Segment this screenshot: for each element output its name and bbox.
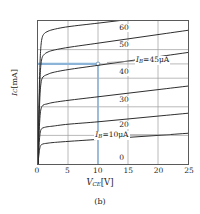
curve-label-40: 40: [118, 68, 130, 76]
gridlines: [38, 21, 188, 164]
x-axis-label-unit: [V]: [101, 177, 114, 187]
x-tick-25: 25: [180, 167, 198, 175]
operating-point-annotation: [38, 62, 100, 164]
curve-ib-50: [38, 30, 188, 164]
x-tick-10: 10: [89, 167, 107, 175]
y-axis-label-unit: [mA]: [10, 69, 19, 89]
annotation-ib-45ua: IB=45μA: [135, 56, 170, 65]
curve-label-60: 60: [118, 24, 130, 32]
ib45-value: =45μA: [143, 55, 169, 64]
y-axis-label-symbol: I: [10, 93, 19, 96]
curve-group: [38, 21, 188, 164]
x-tick-20: 20: [150, 167, 168, 175]
curve-label-0: 0: [118, 154, 125, 162]
ib10-value: =10μA: [102, 130, 128, 139]
annotation-leader-lines: [107, 61, 170, 135]
curve-label-30: 30: [118, 96, 130, 104]
x-tick-0: 0: [28, 167, 46, 175]
x-tick-15: 15: [119, 167, 137, 175]
curve-ib-40: [38, 52, 188, 164]
chart-svg: [38, 21, 188, 164]
figure-caption: (b): [0, 197, 200, 206]
curve-label-50: 50: [118, 41, 130, 49]
plot-area: 60 50 40 30 20 0 IB=45μA IB=10μA: [37, 20, 189, 165]
y-axis-label-subscript: C: [12, 89, 18, 93]
x-axis-label: VCE[V]: [0, 177, 200, 187]
x-tick-5: 5: [58, 167, 76, 175]
curve-ib-60: [38, 21, 188, 164]
x-axis-label-subscript: CE: [93, 181, 101, 187]
annotation-ib-10ua: IB=10μA: [94, 131, 129, 140]
curve-label-20: 20: [118, 121, 130, 129]
y-axis-label: IC[mA]: [10, 53, 19, 113]
figure-output-characteristics: 10 8 7 6 4 2 0 IC[mA] 60 50 40 30 20 0 I…: [0, 0, 200, 214]
